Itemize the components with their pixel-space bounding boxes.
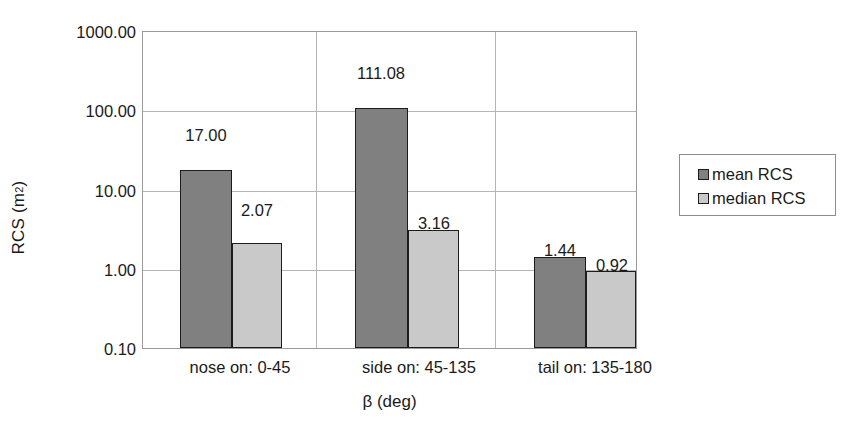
- y-tick-0-1: 0.10: [40, 341, 136, 358]
- bar-label-mean-nose-on: 17.00: [156, 127, 256, 144]
- bar-label-median-nose-on: 2.07: [212, 202, 302, 219]
- x-category-tail-on: tail on: 135-180: [505, 359, 685, 376]
- plot-area: 17.00 2.07 111.08 3.16 1.44 0.92: [142, 31, 637, 349]
- mean-rcs-swatch-icon: [698, 169, 709, 180]
- legend-label-mean-rcs: mean RCS: [712, 165, 793, 184]
- legend-item-mean-rcs: mean RCS: [698, 162, 835, 186]
- category-divider-2: [495, 32, 496, 348]
- y-tick-10: 10.00: [40, 183, 136, 200]
- x-category-nose-on: nose on: 0-45: [152, 359, 328, 376]
- legend: mean RCS median RCS: [679, 154, 836, 216]
- median-rcs-swatch-icon: [698, 193, 709, 204]
- x-category-side-on: side on: 45-135: [330, 359, 508, 376]
- bar-label-median-tail-on: 0.92: [567, 257, 657, 274]
- legend-item-median-rcs: median RCS: [698, 186, 835, 210]
- legend-label-median-rcs: median RCS: [712, 189, 806, 208]
- y-axis-tick-labels: 1000.00 100.00 10.00 1.00 0.10: [36, 0, 136, 435]
- x-axis-title: β (deg): [142, 392, 637, 412]
- y-tick-1000: 1000.00: [40, 24, 136, 41]
- y-tick-1: 1.00: [40, 262, 136, 279]
- category-divider-1: [316, 32, 317, 348]
- bar-mean-nose-on: [180, 170, 232, 348]
- y-tick-100: 100.00: [40, 103, 136, 120]
- y-axis-title-close: ): [9, 181, 29, 187]
- bar-label-mean-side-on: 111.08: [331, 65, 431, 82]
- y-axis-title-text: RCS (m: [9, 193, 29, 255]
- y-axis-title: RCS (m2): [0, 0, 38, 435]
- bar-median-tail-on: [586, 271, 636, 348]
- rcs-bar-chart: RCS (m2) 1000.00 100.00 10.00 1.00 0.10 …: [0, 0, 865, 435]
- bar-label-median-side-on: 3.16: [389, 215, 479, 232]
- bar-median-nose-on: [232, 243, 282, 348]
- bar-median-side-on: [408, 230, 459, 348]
